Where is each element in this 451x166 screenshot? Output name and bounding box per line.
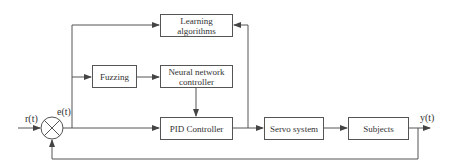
neural-network-controller-label: Neural network controller	[161, 67, 232, 87]
subjects-block: Subjects	[348, 117, 409, 140]
fuzzing-label: Fuzzing	[100, 72, 129, 82]
learning-algorithms-block: Learning algorithms	[160, 14, 233, 37]
pid-controller-label: PID Controller	[170, 124, 224, 134]
input-signal-label: r(t)	[25, 113, 38, 124]
servo-system-block: Servo system	[264, 117, 324, 140]
output-signal-label: y(t)	[420, 112, 434, 123]
servo-system-label: Servo system	[270, 124, 318, 134]
subjects-label: Subjects	[363, 124, 394, 134]
neural-network-controller-block: Neural network controller	[160, 65, 233, 88]
learning-algorithms-label: Learning algorithms	[161, 16, 232, 36]
error-signal-label: e(t)	[57, 106, 71, 117]
fuzzing-block: Fuzzing	[92, 65, 137, 88]
pid-controller-block: PID Controller	[160, 117, 233, 140]
